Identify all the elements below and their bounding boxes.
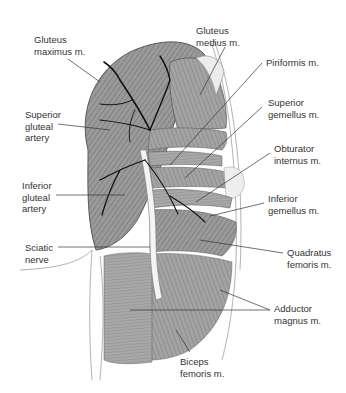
label-obturator-internus: Obturator internus m. bbox=[274, 143, 321, 166]
label-quadratus-femoris: Quadratus femoris m. bbox=[287, 247, 331, 270]
label-inferior-gluteal-artery: Inferior gluteal artery bbox=[22, 180, 52, 215]
label-inferior-gemellus: Inferior gemellus m. bbox=[268, 193, 319, 216]
piriformis-muscle bbox=[148, 128, 227, 150]
inferior-gemellus-muscle bbox=[152, 189, 232, 208]
gluteal-region-anatomy-diagram: Gluteus maximus m. Gluteus medius m. Pir… bbox=[0, 0, 346, 393]
label-biceps-femoris: Biceps femoris m. bbox=[180, 356, 224, 379]
quadratus-femoris-muscle bbox=[150, 210, 236, 257]
superior-gemellus-muscle bbox=[148, 151, 222, 166]
label-superior-gemellus: Superior gemellus m. bbox=[268, 97, 319, 120]
label-piriformis: Piriformis m. bbox=[266, 57, 319, 69]
label-gluteus-medius: Gluteus medius m. bbox=[196, 25, 240, 48]
biceps-femoris-muscle bbox=[104, 253, 152, 364]
label-superior-gluteal-artery: Superior gluteal artery bbox=[25, 109, 61, 144]
label-sciatic-nerve: Sciatic nerve bbox=[25, 242, 53, 265]
obturator-internus-muscle bbox=[150, 167, 226, 188]
label-adductor-magnus: Adductor magnus m. bbox=[274, 303, 321, 326]
label-gluteus-maximus: Gluteus maximus m. bbox=[34, 34, 85, 57]
adductor-magnus-muscle bbox=[150, 253, 232, 360]
